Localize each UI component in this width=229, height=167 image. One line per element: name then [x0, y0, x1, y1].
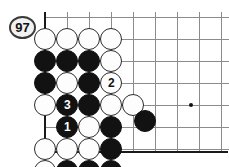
go-board-diagram: 231 97: [0, 0, 229, 167]
move-number-marker: 97: [9, 16, 36, 39]
marker-layer: 97: [0, 0, 229, 167]
